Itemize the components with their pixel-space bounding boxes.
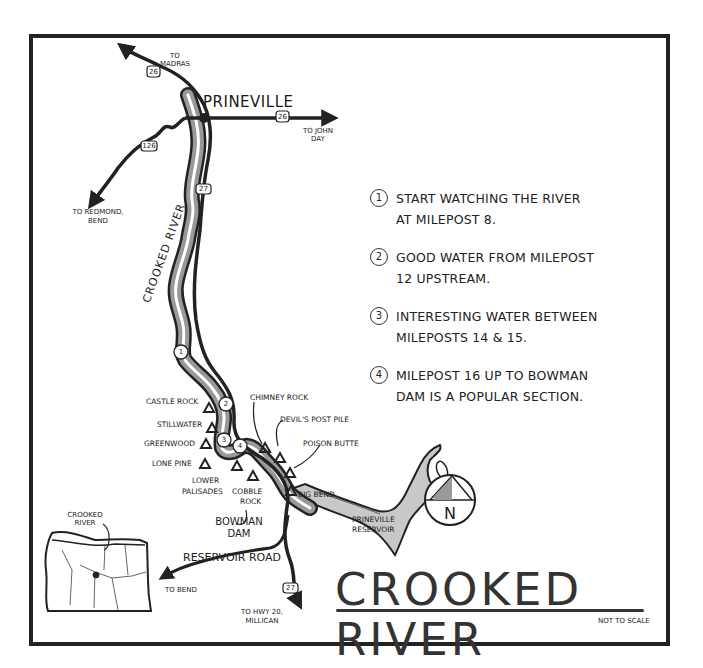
campground-stillwater: STILLWATER xyxy=(157,421,202,429)
label-reservoir-1: PRINEVILLE xyxy=(352,516,395,524)
note-item: 1 START WATCHING THE RIVERAT MILEPOST 8. xyxy=(370,188,630,230)
scale-note: NOT TO SCALE xyxy=(598,617,650,625)
campground-greenwood: GREENWOOD xyxy=(144,440,195,448)
label-to-madras-2: MADRAS xyxy=(150,60,200,68)
note-line: MILEPOST 16 UP TO BOWMAN xyxy=(396,365,588,386)
title-underline xyxy=(336,609,644,612)
campground-lone-pine: LONE PINE xyxy=(152,460,192,468)
campground-cobble-rock-1: COBBLE xyxy=(232,488,262,496)
campground-chimney-rock: CHIMNEY ROCK xyxy=(250,394,308,402)
label-reservoir-2: RESERVOIR xyxy=(352,526,395,534)
town-prineville: PRINEVILLE xyxy=(203,93,293,111)
notes-list: 1 START WATCHING THE RIVERAT MILEPOST 8.… xyxy=(370,188,630,424)
note-item: 4 MILEPOST 16 UP TO BOWMANDAM IS A POPUL… xyxy=(370,365,630,407)
note-number: 4 xyxy=(370,366,388,384)
river-marker-2: 2 xyxy=(219,400,233,408)
label-to-redmond-1: TO REDMOND, xyxy=(68,208,128,216)
note-line: MILEPOSTS 14 & 15. xyxy=(396,327,597,348)
shield-us26-north: 26 xyxy=(147,68,160,76)
label-to-john-day-1: TO JOHN xyxy=(298,127,338,135)
label-reservoir-road: RESERVOIR ROAD xyxy=(183,552,281,563)
note-line: 12 UPSTREAM. xyxy=(396,268,594,289)
note-number: 1 xyxy=(370,189,388,207)
note-number: 3 xyxy=(370,307,388,325)
oregon-inset-map xyxy=(45,532,151,611)
note-item: 2 GOOD WATER FROM MILEPOST12 UPSTREAM. xyxy=(370,247,630,289)
campground-big-bend: BIG BEND xyxy=(298,491,335,499)
campground-poison-butte: POISON BUTTE xyxy=(303,440,359,448)
shield-or27-north: 27 xyxy=(196,185,211,193)
note-number: 2 xyxy=(370,248,388,266)
shield-or126: 126 xyxy=(141,142,157,150)
label-to-redmond-2: BEND xyxy=(68,217,128,225)
label-to-bend: TO BEND xyxy=(165,586,197,594)
inset-label-2: RIVER xyxy=(60,519,110,527)
note-line: GOOD WATER FROM MILEPOST xyxy=(396,247,594,268)
note-line: INTERESTING WATER BETWEEN xyxy=(396,306,597,327)
river-marker-3: 3 xyxy=(217,436,231,444)
label-bowman-dam-1: BOWMAN xyxy=(214,516,264,527)
campground-cobble-rock-2: ROCK xyxy=(240,498,261,506)
river-marker-1: 1 xyxy=(174,348,188,356)
campground-lower-palisades-1: LOWER xyxy=(192,477,219,485)
campground-devils-post-pile: DEVIL'S POST PILE xyxy=(280,416,349,424)
label-bowman-dam-2: DAM xyxy=(214,528,264,539)
map-title: CROOKED RIVER xyxy=(335,565,703,665)
prineville-marker xyxy=(199,113,209,123)
highway-shields xyxy=(141,66,298,593)
note-line: START WATCHING THE RIVER xyxy=(396,188,581,209)
label-to-hwy20-1: TO HWY 20, xyxy=(232,608,292,616)
river-marker-4: 4 xyxy=(233,442,247,450)
compass-north-label: N xyxy=(440,505,460,523)
campground-lower-palisades-2: PALISADES xyxy=(182,488,223,496)
note-line: AT MILEPOST 8. xyxy=(396,209,581,230)
label-to-john-day-2: DAY xyxy=(298,135,338,143)
or-126 xyxy=(93,118,185,202)
shield-us26-east: 26 xyxy=(276,113,289,121)
shield-or27-south: 27 xyxy=(283,584,298,592)
note-line: DAM IS A POPULAR SECTION. xyxy=(396,386,588,407)
note-item: 3 INTERESTING WATER BETWEENMILEPOSTS 14 … xyxy=(370,306,630,348)
label-to-hwy20-2: MILLICAN xyxy=(232,617,292,625)
inset-label-1: CROOKED xyxy=(60,511,110,519)
label-to-madras-1: TO xyxy=(160,52,190,60)
campground-castle-rock: CASTLE ROCK xyxy=(146,398,198,406)
